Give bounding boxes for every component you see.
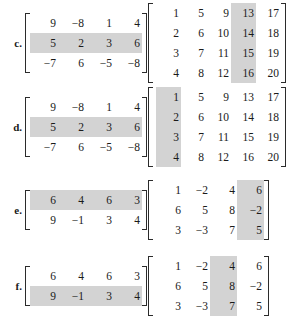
matrix-cell: 2 [58,117,86,137]
matrix-cell: 17 [256,87,281,107]
matrix-f-right: 1−246658−23−375 [148,256,269,316]
matrix-cell: 6 [58,53,86,73]
problem-label-d: d. [0,121,25,133]
matrix-cell: 6 [30,190,58,210]
left-bracket-icon [148,256,153,316]
matrix-cell: 6 [86,266,114,286]
matrix-cell: 3 [86,210,114,230]
matrix-cell: −5 [86,53,114,73]
right-bracket-icon [142,266,147,306]
matrix-cell: 9 [206,87,231,107]
matrix-cell: −3 [183,296,210,316]
left-bracket-icon [148,87,153,167]
matrix-cell: 4 [114,210,142,230]
matrix-cell: 4 [58,190,86,210]
matrix-cell: 13 [231,3,256,23]
matrix-cell: 3 [114,266,142,286]
matrix-cell: 1 [86,13,114,33]
matrix-cell: −2 [183,180,210,200]
matrix-cell: 4 [114,97,142,117]
matrix-cell: 1 [156,87,181,107]
matrix-cell: 15 [231,43,256,63]
matrix-cell: 16 [231,147,256,167]
matrix-cell: 1 [156,180,183,200]
problem-c: c. 9−8145236−76−5−8 15913172610141837111… [0,2,302,84]
matrix-cell: 6 [58,137,86,157]
matrix-cell: 10 [206,23,231,43]
matrix-cell: 12 [206,147,231,167]
matrix-cell: 4 [210,180,237,200]
matrix-cell: 9 [30,286,58,306]
matrix-cell: 4 [156,63,181,83]
matrix-cell: 6 [237,256,264,276]
matrix-cell: 3 [156,220,183,240]
left-bracket-icon [148,180,153,240]
matrix-cell: 3 [86,286,114,306]
matrix-cell: 8 [210,200,237,220]
matrix-d-right-grid: 1591317261014183711151948121620 [153,87,281,167]
right-bracket-icon [142,97,147,157]
matrix-cell: 2 [156,23,181,43]
matrix-pair-d: 9−8145236−76−5−8 15913172610141837111519… [25,87,286,167]
matrix-cell: 4 [114,286,142,306]
matrix-cell: 5 [183,276,210,296]
right-bracket-icon [264,256,269,316]
right-bracket-icon [264,180,269,240]
matrix-cell: 6 [114,33,142,53]
matrix-cell: 8 [210,276,237,296]
matrix-cell: 5 [181,87,206,107]
matrix-c-left-grid: 9−8145236−76−5−8 [30,13,142,73]
matrix-e-right-grid: 1−246658−23−375 [153,180,264,240]
problem-label-c: c. [0,37,25,49]
matrix-d-left-grid: 9−8145236−76−5−8 [30,97,142,157]
matrix-cell: 1 [86,97,114,117]
matrix-cell: 11 [206,127,231,147]
matrix-pair-f: 64639−134 1−246658−23−375 [25,256,269,316]
matrix-cell: −8 [58,97,86,117]
matrix-cell: 5 [183,200,210,220]
matrix-cell: 9 [206,3,231,23]
left-bracket-icon [148,3,153,83]
matrix-cell: −7 [30,137,58,157]
matrix-cell: 15 [231,127,256,147]
matrix-cell: 6 [114,117,142,137]
matrix-pair-e: 64639−134 1−246658−23−375 [25,180,269,240]
matrix-cell: −8 [114,137,142,157]
matrix-cell: 5 [237,220,264,240]
matrix-cell: 9 [30,13,58,33]
right-bracket-icon [281,87,286,167]
matrix-f-left-grid: 64639−134 [30,266,142,306]
matrix-c-left: 9−8145236−76−5−8 [25,13,147,73]
matrix-cell: 3 [156,43,181,63]
matrix-cell: −8 [114,53,142,73]
matrix-cell: 3 [86,117,114,137]
matrix-cell: −2 [237,276,264,296]
matrix-cell: 7 [210,220,237,240]
matrix-cell: 7 [181,127,206,147]
left-bracket-icon [25,97,30,157]
matrix-cell: 11 [206,43,231,63]
matrix-cell: 6 [30,266,58,286]
matrix-cell: 4 [58,266,86,286]
problem-e: e. 64639−134 1−246658−23−375 [0,176,302,244]
matrix-cell: 9 [30,97,58,117]
matrix-cell: 6 [181,23,206,43]
matrix-cell: 5 [30,117,58,137]
matrix-cell: 2 [58,33,86,53]
matrix-cell: 7 [210,296,237,316]
problem-d: d. 9−8145236−76−5−8 15913172610141837111… [0,86,302,168]
matrix-cell: 6 [86,190,114,210]
matrix-d-left: 9−8145236−76−5−8 [25,97,147,157]
matrix-c-right: 1591317261014183711151948121620 [148,3,286,83]
matrix-cell: 14 [231,23,256,43]
matrix-cell: 6 [156,276,183,296]
matrix-cell: −2 [183,256,210,276]
matrix-f-left: 64639−134 [25,266,147,306]
matrix-cell: 3 [86,33,114,53]
right-bracket-icon [142,13,147,73]
matrix-d-right: 1591317261014183711151948121620 [148,87,286,167]
matrix-cell: 20 [256,63,281,83]
matrix-cell: 13 [231,87,256,107]
matrix-cell: 10 [206,107,231,127]
matrix-cell: 4 [210,256,237,276]
